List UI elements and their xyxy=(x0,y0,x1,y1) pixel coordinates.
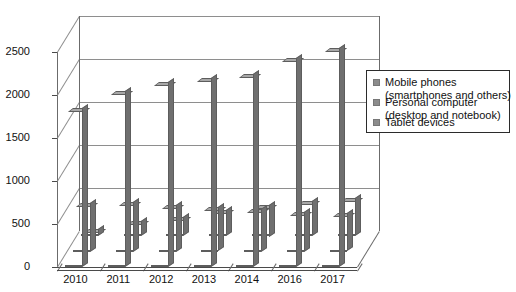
legend-item-2[interactable]: Tablet devices xyxy=(373,116,455,129)
x-axis-line xyxy=(57,270,357,271)
bar-side xyxy=(176,201,182,252)
x-tick-label-2016: 2016 xyxy=(274,274,306,285)
legend-swatch-0 xyxy=(373,79,380,86)
plot-area xyxy=(0,0,516,292)
bar-face xyxy=(322,265,339,267)
x-tick-label-2017: 2017 xyxy=(317,274,349,285)
depth-line-2000 xyxy=(57,59,80,96)
bar-2017-series0 xyxy=(322,52,339,267)
bar-side xyxy=(304,208,310,252)
bar-side xyxy=(90,199,96,252)
x-tick-label-2012: 2012 xyxy=(145,274,177,285)
bar-face xyxy=(151,265,168,267)
bar-side xyxy=(339,44,345,267)
gridline-2500 xyxy=(79,16,379,17)
bar-face xyxy=(194,265,211,267)
y-tick-mark-1000 xyxy=(52,181,57,182)
floor-right-edge xyxy=(357,231,380,268)
legend-swatch-1 xyxy=(373,99,380,106)
bar-face xyxy=(65,265,82,267)
y-tick-mark-0 xyxy=(52,267,57,268)
legend-label-line1: Personal computer xyxy=(385,96,501,109)
y-tick-mark-1500 xyxy=(52,138,57,139)
bar-side xyxy=(168,78,174,267)
bar-side xyxy=(133,198,139,252)
legend-swatch-2 xyxy=(373,119,380,126)
bar-side xyxy=(226,206,232,236)
bar-side xyxy=(98,225,104,236)
bar-side xyxy=(253,70,259,267)
legend-label-line1: Mobile phones xyxy=(385,76,511,89)
bar-side xyxy=(296,54,302,267)
bar-2011-series0 xyxy=(108,95,125,267)
y-tick-mark-2500 xyxy=(52,52,57,53)
bar-side xyxy=(312,197,318,236)
bar-side xyxy=(141,217,147,236)
x-tick-label-2013: 2013 xyxy=(188,274,220,285)
bar-2012-series0 xyxy=(151,86,168,267)
y-tick-mark-500 xyxy=(52,224,57,225)
legend-label-line1: Tablet devices xyxy=(385,116,455,129)
bar-side xyxy=(82,104,88,267)
plot-left-edge xyxy=(57,52,58,267)
bar-side xyxy=(269,201,275,237)
bar-side xyxy=(261,205,267,252)
bar-face xyxy=(108,265,125,267)
bar-2010-series0 xyxy=(65,112,82,267)
bar-face xyxy=(236,265,253,267)
bar-face xyxy=(279,265,296,267)
depth-line-2500 xyxy=(57,16,80,53)
x-tick-label-2011: 2011 xyxy=(102,274,134,285)
y-tick-mark-2000 xyxy=(52,95,57,96)
bar-2014-series0 xyxy=(236,78,253,267)
bar-side xyxy=(218,203,224,251)
bar-2016-series0 xyxy=(279,62,296,267)
chart-3d-bar: 05001000150020002500 2010201120122013201… xyxy=(0,0,516,292)
x-tick-label-2014: 2014 xyxy=(231,274,263,285)
bar-side xyxy=(355,194,361,236)
bar-side xyxy=(125,87,131,267)
x-tick-label-2010: 2010 xyxy=(59,274,91,285)
legend-label-2: Tablet devices xyxy=(385,116,455,129)
bar-side xyxy=(183,213,189,237)
bar-side xyxy=(211,74,217,267)
bar-side xyxy=(347,209,353,251)
bar-2013-series0 xyxy=(194,82,211,267)
chart-legend: Mobile phones(smartphones and others)Per… xyxy=(366,70,510,133)
